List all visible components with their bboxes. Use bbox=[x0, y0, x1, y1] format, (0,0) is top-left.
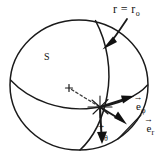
e-phi-vector-accent: → bbox=[133, 93, 142, 102]
e-theta-subscript: θ bbox=[104, 134, 108, 143]
sphere-outline bbox=[10, 20, 148, 150]
e-theta-base: →e bbox=[99, 128, 104, 140]
e-r-base: →e bbox=[147, 122, 152, 134]
equator-great-circle bbox=[11, 80, 148, 109]
radius-condition-label: r = ro bbox=[113, 3, 140, 18]
radius-dashed-line bbox=[72, 90, 100, 107]
unit-vector-theta-label: →eθ bbox=[99, 129, 108, 143]
e-phi-base: →e bbox=[136, 100, 141, 112]
e-r-subscript: r bbox=[151, 128, 154, 137]
e-r-vector-accent: → bbox=[144, 115, 153, 124]
unit-vector-r-label: →er bbox=[147, 123, 155, 137]
spherical-coordinates-figure: r = ro S →eφ →er →eθ bbox=[0, 0, 165, 162]
sphere-center-marker bbox=[66, 85, 73, 92]
figure-canvas bbox=[0, 0, 165, 162]
e-theta-vector-accent: → bbox=[97, 121, 106, 130]
radius-condition-subscript: o bbox=[136, 9, 140, 18]
surface-label: S bbox=[44, 52, 50, 62]
radius-condition-text: r = r bbox=[113, 2, 136, 16]
vector-e-phi bbox=[100, 96, 134, 108]
